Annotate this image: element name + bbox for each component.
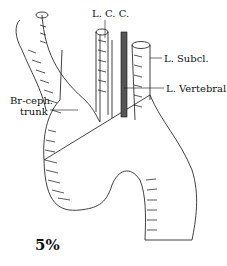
label-left-vertebral: L. Vertebral	[166, 83, 226, 94]
label-brceph-line1: Br-ceph.	[10, 95, 53, 106]
label-left-subclavian: L. Subcl.	[164, 53, 209, 64]
left-common-carotid	[96, 32, 108, 115]
frequency-label: 5%	[35, 236, 60, 254]
left-subclavian	[132, 45, 150, 120]
label-brceph-line2: trunk	[20, 106, 48, 117]
label-lcc: L. C. C.	[92, 8, 129, 19]
aortic-arch-outline	[44, 35, 197, 240]
aortic-arch-diagram	[0, 0, 227, 266]
left-vertebral	[121, 32, 127, 117]
